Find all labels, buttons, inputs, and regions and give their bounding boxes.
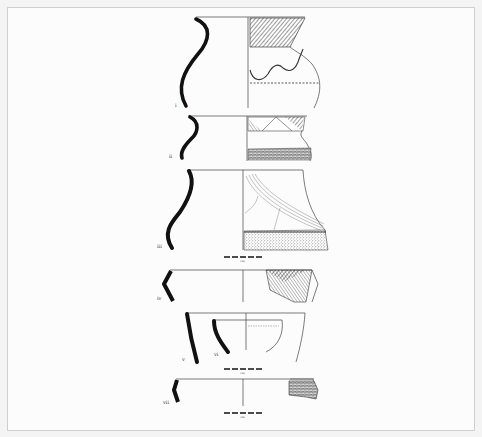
- vessel-label: iii: [157, 244, 162, 249]
- scale-label: cm: [240, 415, 245, 419]
- vessel-label: iv: [157, 296, 161, 301]
- vessel-label: ii: [169, 154, 172, 159]
- vessel-iii: [168, 170, 328, 250]
- vessel-label: vi: [214, 352, 218, 357]
- vessel-vi: [213, 313, 282, 352]
- vessel-label: vii: [163, 400, 169, 405]
- vessel-i: [181, 17, 320, 108]
- vessel-iv: [164, 270, 318, 302]
- vessel-vii: [174, 379, 318, 406]
- scale-label: cm: [240, 371, 245, 375]
- scale-label: cm: [240, 259, 245, 263]
- vessel-label: v: [182, 357, 185, 362]
- vessel-label: i: [175, 103, 177, 108]
- vessel-ii: [181, 116, 311, 161]
